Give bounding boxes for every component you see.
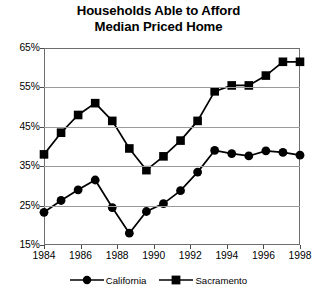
data-point-sacramento	[91, 99, 100, 108]
data-point-california	[261, 146, 270, 155]
legend-item-sacramento: Sacramento	[159, 274, 247, 286]
x-axis-tick-label: 1996	[252, 250, 275, 261]
data-point-sacramento	[227, 81, 236, 90]
chart-container: Households Able to Afford Median Priced …	[0, 0, 317, 292]
y-axis-tick-label: 15%	[0, 240, 40, 250]
y-axis-tick-mark	[40, 87, 44, 88]
legend-marker-square-icon	[159, 274, 193, 286]
y-axis-tick-mark	[40, 166, 44, 167]
data-point-sacramento	[176, 136, 185, 145]
data-point-california	[227, 149, 236, 158]
data-point-california	[142, 207, 151, 216]
data-point-california	[108, 203, 117, 212]
x-axis-tick-label: 1994	[215, 250, 238, 261]
data-point-california	[57, 196, 66, 205]
data-point-sacramento	[193, 117, 202, 126]
x-axis-tick-mark	[81, 245, 82, 249]
x-axis-tick-mark	[154, 245, 155, 249]
gridline	[44, 206, 300, 207]
y-axis-labels: 15%25%35%45%55%65%	[0, 48, 40, 245]
plot-area	[44, 48, 300, 245]
data-point-california	[193, 168, 202, 177]
data-point-california	[159, 199, 168, 208]
legend-marker-circle-icon	[70, 274, 104, 286]
data-point-sacramento	[262, 71, 271, 80]
y-axis-tick-mark	[40, 48, 44, 49]
data-point-sacramento	[125, 144, 134, 153]
x-axis-tick-label: 1986	[69, 250, 92, 261]
y-axis-tick-label: 25%	[0, 201, 40, 211]
data-point-sacramento	[74, 111, 83, 120]
data-point-sacramento	[245, 81, 254, 90]
data-point-sacramento	[296, 57, 305, 66]
legend-label-sacramento: Sacramento	[195, 275, 247, 286]
y-axis-tick-label: 45%	[0, 122, 40, 132]
x-axis-tick-mark	[117, 245, 118, 249]
data-point-sacramento	[279, 57, 288, 66]
chart-title-line-1: Households Able to Afford	[0, 3, 317, 19]
data-point-california	[91, 176, 100, 185]
data-point-california	[74, 185, 83, 194]
x-axis-tick-mark	[227, 245, 228, 249]
data-point-sacramento	[57, 128, 66, 137]
gridline	[44, 166, 300, 167]
series-line-california	[44, 150, 300, 233]
y-axis-tick-label: 65%	[0, 43, 40, 53]
x-axis-tick-mark	[44, 245, 45, 249]
gridline	[44, 87, 300, 88]
x-axis-tick-mark	[263, 245, 264, 249]
data-point-california	[244, 152, 253, 161]
x-axis-tick-mark	[300, 245, 301, 249]
data-point-california	[296, 151, 305, 160]
data-point-sacramento	[108, 117, 117, 126]
y-axis-tick-mark	[40, 206, 44, 207]
x-axis-labels: 19841986198819901992199419961998	[44, 250, 300, 264]
gridline	[44, 127, 300, 128]
data-point-california	[125, 229, 134, 238]
x-axis-tick-mark	[190, 245, 191, 249]
x-axis-tick-label: 1990	[142, 250, 165, 261]
x-axis-tick-label: 1992	[179, 250, 202, 261]
data-point-sacramento	[159, 152, 168, 161]
chart-title: Households Able to Afford Median Priced …	[0, 3, 317, 34]
data-point-california	[176, 186, 185, 195]
data-point-california	[279, 148, 288, 157]
legend-label-california: California	[106, 275, 147, 286]
data-point-sacramento	[40, 150, 49, 159]
chart-legend: California Sacramento	[0, 272, 317, 288]
chart-title-line-2: Median Priced Home	[0, 19, 317, 35]
data-point-california	[40, 208, 49, 217]
y-axis-tick-label: 35%	[0, 161, 40, 171]
legend-item-california: California	[70, 274, 147, 286]
y-axis-tick-mark	[40, 127, 44, 128]
x-axis-tick-label: 1988	[106, 250, 129, 261]
y-axis-tick-label: 55%	[0, 82, 40, 92]
data-point-california	[210, 146, 219, 155]
x-axis-tick-label: 1998	[289, 250, 312, 261]
x-axis-tick-label: 1984	[33, 250, 56, 261]
series-layer	[44, 48, 300, 245]
